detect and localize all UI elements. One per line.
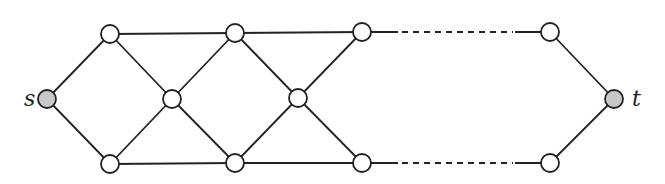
edge-a2-m2: [235, 33, 298, 98]
node-t: [605, 90, 623, 108]
node-m1: [163, 90, 181, 108]
edge-b2-m2: [235, 98, 298, 163]
node-a1: [101, 25, 119, 43]
edge-b1-b2: [110, 163, 235, 164]
ellipsis-edges-group: [362, 32, 550, 163]
edge-m1-b2: [172, 99, 235, 163]
edge-b1-m1: [110, 99, 172, 164]
edge-s-a1: [47, 34, 110, 99]
edge-m2-a3: [298, 32, 362, 98]
edge-bk-t: [550, 99, 614, 163]
label-t: t: [632, 86, 641, 111]
edge-m1-a2: [172, 33, 235, 99]
edge-a2-a3: [235, 32, 362, 33]
edge-a1-a2: [110, 33, 235, 34]
edges-group: [47, 32, 614, 164]
labels-group: st: [24, 86, 641, 111]
node-bk: [541, 154, 559, 172]
edge-ak-t: [550, 32, 614, 99]
graph-svg: st: [0, 0, 665, 184]
node-a2: [226, 24, 244, 42]
node-b1: [101, 155, 119, 173]
edge-m2-b3: [298, 98, 362, 163]
nodes-group: [38, 23, 623, 173]
node-a3: [353, 23, 371, 41]
node-ak: [541, 23, 559, 41]
edge-s-b1: [47, 99, 110, 164]
graph-diagram: st: [0, 0, 665, 184]
node-b3: [353, 154, 371, 172]
edge-a1-m1: [110, 34, 172, 99]
label-s: s: [24, 86, 35, 111]
node-m2: [289, 89, 307, 107]
node-s: [38, 90, 56, 108]
node-b2: [226, 154, 244, 172]
